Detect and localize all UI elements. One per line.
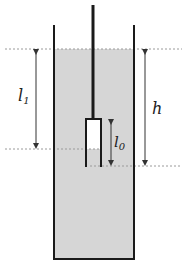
label-h: h (152, 99, 162, 118)
diagram-canvas: l1 h l0 (0, 0, 187, 263)
label-l1: l1 (18, 86, 30, 106)
tube-air-gap (86, 120, 101, 149)
